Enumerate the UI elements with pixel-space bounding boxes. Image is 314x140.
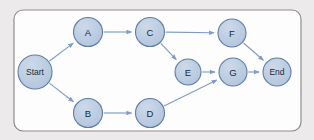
- node-shape-start[interactable]: [18, 55, 52, 89]
- node-shape-c[interactable]: [136, 18, 165, 47]
- diagram-canvas: StartABCDEFGEnd: [0, 0, 314, 140]
- node-e[interactable]: E: [175, 59, 201, 85]
- node-start[interactable]: Start: [18, 55, 52, 89]
- node-shape-b[interactable]: [74, 99, 103, 128]
- node-shape-e[interactable]: [175, 59, 201, 85]
- node-c[interactable]: C: [136, 18, 165, 47]
- node-shape-g[interactable]: [219, 58, 247, 86]
- directed-graph: StartABCDEFGEnd: [0, 0, 314, 140]
- node-d[interactable]: D: [136, 99, 165, 128]
- node-shape-end[interactable]: [263, 58, 291, 86]
- node-f[interactable]: F: [218, 19, 246, 47]
- edge-c-f: [166, 32, 214, 33]
- node-end[interactable]: End: [263, 58, 291, 86]
- node-a[interactable]: A: [74, 18, 103, 47]
- node-shape-a[interactable]: [74, 18, 103, 47]
- node-g[interactable]: G: [219, 58, 247, 86]
- node-shape-f[interactable]: [218, 19, 246, 47]
- node-shape-d[interactable]: [136, 99, 165, 128]
- node-b[interactable]: B: [74, 99, 103, 128]
